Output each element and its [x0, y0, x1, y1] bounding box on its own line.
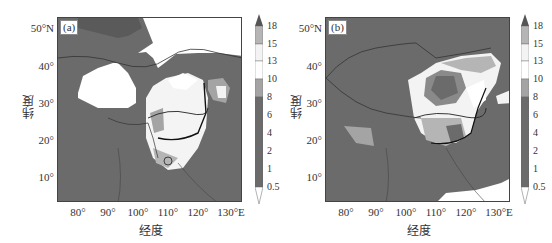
ytick-10: 10° [14, 171, 54, 183]
panel-label-b: (b) [328, 20, 347, 35]
contour-map-a [58, 18, 242, 202]
ytick-20: 20° [14, 134, 54, 146]
y-axis-label: 纬度 [20, 95, 37, 119]
y-axis-label: 纬度 [288, 95, 305, 119]
ytick-50n: 50°N [282, 22, 322, 34]
xtick-130e: 130°E [479, 206, 519, 218]
ytick-10: 10° [282, 171, 322, 183]
cb-15: 15 [533, 38, 543, 49]
xtick-130e: 130°E [211, 206, 251, 218]
x-axis-label: 经度 [121, 221, 181, 239]
cb-6: 6 [533, 109, 538, 120]
cb-10: 10 [533, 73, 543, 84]
map-plot-b: (b) [325, 17, 510, 202]
x-axis-label: 经度 [389, 221, 449, 239]
colorbar-a: 18 15 13 10 8 6 4 2 1 0.5 [255, 14, 263, 204]
ytick-40: 40° [14, 60, 54, 72]
cb-2: 2 [533, 145, 538, 156]
cb-13: 13 [533, 55, 543, 66]
colorbar-gradient [521, 14, 529, 204]
cb-0.5: 0.5 [533, 181, 546, 192]
map-plot-a: (a) [57, 17, 242, 202]
panel-label-a: (a) [60, 20, 78, 35]
ytick-40: 40° [282, 60, 322, 72]
colorbar-gradient [255, 14, 263, 204]
panel-b: (b) 50°N 40° 30° 20° 10° 纬度 80° 90° 100°… [268, 0, 544, 243]
ytick-50n: 50°N [14, 22, 54, 34]
cb-1: 1 [533, 163, 538, 174]
cb-8: 8 [533, 91, 538, 102]
contour-map-b [326, 18, 510, 202]
cb-4: 4 [533, 127, 538, 138]
ytick-20: 20° [282, 134, 322, 146]
panel-a: (a) 50°N 40° 30° 20° 10° 纬度 80° 90° 100°… [0, 0, 276, 243]
colorbar-b: 18 15 13 10 8 6 4 2 1 0.5 [521, 14, 529, 204]
cb-18: 18 [533, 20, 543, 31]
